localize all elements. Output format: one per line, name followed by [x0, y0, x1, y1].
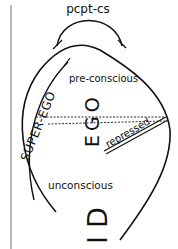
cap-tick-right [118, 40, 126, 48]
perception-cap-arc [57, 21, 122, 47]
perception-label: pcpt-cs [66, 2, 110, 16]
superego-tick [64, 58, 70, 66]
unconscious-label: unconscious [48, 179, 113, 191]
ego-label: EGO [81, 93, 103, 147]
freud-structural-diagram: pcpt-cs pre-conscious unconscious EGO SU… [0, 0, 178, 249]
id-label: ID [82, 199, 113, 244]
superego-label: SUPER-EGO [18, 89, 59, 163]
preconscious-label: pre-conscious [69, 73, 138, 84]
